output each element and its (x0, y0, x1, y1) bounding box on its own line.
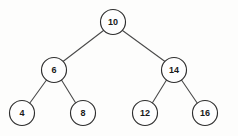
tree-node[interactable]: 14 (162, 58, 187, 83)
tree-edge (182, 80, 198, 104)
tree-node[interactable]: 6 (42, 58, 67, 83)
tree-node-label: 10 (108, 17, 118, 27)
tree-edge (30, 80, 47, 104)
tree-node-label: 6 (51, 65, 56, 75)
tree-edge (152, 80, 167, 104)
tree-node[interactable]: 12 (133, 101, 158, 126)
tree-edge (63, 31, 104, 62)
tree-node[interactable]: 16 (193, 101, 218, 126)
tree-edge (123, 31, 166, 62)
tree-node-label: 12 (140, 108, 150, 118)
tree-edge (62, 80, 77, 104)
tree-node-label: 16 (200, 108, 210, 118)
tree-node-label: 4 (19, 108, 24, 118)
tree-node[interactable]: 10 (101, 10, 126, 35)
binary-tree-figure: 10614481216 (0, 0, 238, 136)
tree-node-label: 8 (80, 108, 85, 118)
tree-node[interactable]: 8 (71, 101, 96, 126)
tree-diagram-canvas: 10614481216 (0, 0, 238, 136)
tree-node-label: 14 (169, 65, 179, 75)
tree-node[interactable]: 4 (10, 101, 35, 126)
tree-nodes-group: 10614481216 (10, 10, 218, 126)
